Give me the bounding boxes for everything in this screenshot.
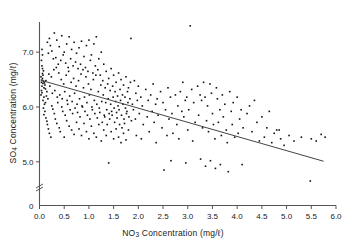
data-point bbox=[104, 116, 106, 118]
regression-trendline bbox=[40, 80, 323, 161]
data-point bbox=[102, 80, 104, 82]
data-point bbox=[192, 140, 194, 142]
data-point bbox=[221, 135, 223, 137]
y-tick-label: 7.0 bbox=[22, 48, 34, 57]
data-point bbox=[256, 122, 258, 124]
data-point bbox=[126, 113, 128, 115]
data-point bbox=[259, 140, 261, 142]
data-point bbox=[100, 51, 102, 53]
data-point bbox=[41, 82, 43, 84]
data-point bbox=[222, 94, 224, 96]
data-point bbox=[57, 63, 59, 65]
x-tick-group: 0.00.51.01.52.02.53.03.54.04.55.05.56.0 bbox=[34, 206, 342, 221]
x-tick-label: 2.0 bbox=[133, 212, 145, 221]
data-point bbox=[140, 96, 142, 98]
data-point bbox=[50, 45, 52, 47]
data-point bbox=[56, 96, 58, 98]
data-point bbox=[89, 118, 91, 120]
data-point bbox=[220, 164, 222, 166]
data-point bbox=[48, 128, 50, 130]
data-point bbox=[135, 118, 137, 120]
data-point bbox=[83, 87, 85, 89]
data-point bbox=[152, 83, 154, 85]
data-point bbox=[264, 136, 266, 138]
data-point bbox=[106, 109, 108, 111]
data-point bbox=[232, 102, 234, 104]
data-point bbox=[119, 124, 121, 126]
data-point bbox=[54, 32, 56, 34]
data-point bbox=[114, 91, 116, 93]
data-point bbox=[54, 90, 56, 92]
data-point bbox=[124, 123, 126, 125]
data-point bbox=[78, 47, 80, 49]
data-point bbox=[161, 127, 163, 129]
data-point bbox=[69, 95, 71, 97]
data-point bbox=[127, 91, 129, 93]
data-point bbox=[165, 109, 167, 111]
data-point bbox=[168, 118, 170, 120]
data-point bbox=[41, 92, 43, 94]
data-point bbox=[237, 133, 239, 135]
data-point bbox=[214, 138, 216, 140]
data-point bbox=[123, 118, 125, 120]
data-point bbox=[101, 101, 103, 103]
data-point bbox=[72, 113, 74, 115]
data-point bbox=[43, 107, 45, 109]
data-point bbox=[215, 168, 217, 170]
data-point bbox=[64, 91, 66, 93]
data-point bbox=[136, 135, 138, 137]
data-point bbox=[86, 102, 88, 104]
data-point bbox=[83, 56, 85, 58]
data-point bbox=[167, 87, 169, 89]
data-point bbox=[225, 129, 227, 131]
data-point bbox=[201, 100, 203, 102]
data-point bbox=[78, 80, 80, 82]
data-point bbox=[185, 162, 187, 164]
data-point bbox=[84, 96, 86, 98]
data-point bbox=[48, 73, 50, 75]
data-point bbox=[96, 36, 98, 38]
x-tick-label: 6.0 bbox=[330, 212, 342, 221]
data-point bbox=[58, 72, 60, 74]
data-point bbox=[240, 109, 242, 111]
data-point bbox=[234, 136, 236, 138]
data-point bbox=[273, 133, 275, 135]
data-point bbox=[92, 109, 94, 111]
data-point bbox=[134, 80, 136, 82]
data-point bbox=[199, 94, 201, 96]
data-point bbox=[41, 49, 43, 51]
data-point bbox=[65, 62, 67, 64]
data-point bbox=[51, 50, 53, 52]
data-point bbox=[71, 129, 73, 131]
data-point bbox=[204, 96, 206, 98]
data-point bbox=[187, 129, 189, 131]
data-point bbox=[56, 39, 58, 41]
data-point bbox=[113, 138, 115, 140]
x-tick-label: 4.5 bbox=[256, 212, 268, 221]
data-point bbox=[58, 127, 60, 129]
data-point bbox=[62, 54, 64, 56]
data-point bbox=[78, 128, 80, 130]
data-point bbox=[94, 113, 96, 115]
data-point bbox=[81, 135, 83, 137]
data-point bbox=[138, 85, 140, 87]
data-point bbox=[61, 35, 63, 37]
data-point bbox=[93, 79, 95, 81]
data-point bbox=[47, 124, 49, 126]
data-point bbox=[150, 94, 152, 96]
data-point bbox=[63, 83, 65, 85]
data-point bbox=[153, 122, 155, 124]
data-point bbox=[107, 83, 109, 85]
data-point bbox=[120, 142, 122, 144]
data-point bbox=[115, 82, 117, 84]
data-point bbox=[128, 116, 130, 118]
data-point bbox=[283, 145, 285, 147]
data-points-layer bbox=[40, 25, 326, 182]
data-point bbox=[251, 131, 253, 133]
data-point bbox=[41, 60, 43, 62]
data-point bbox=[59, 131, 61, 133]
x-tick-label: 2.5 bbox=[157, 212, 169, 221]
data-point bbox=[66, 120, 68, 122]
data-point bbox=[206, 120, 208, 122]
data-point bbox=[104, 87, 106, 89]
